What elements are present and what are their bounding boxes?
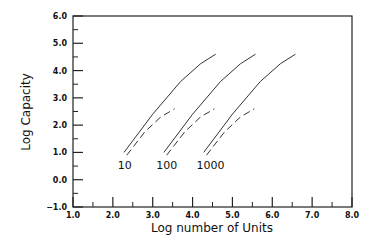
plot-border [73,16,352,207]
y-tick-label: 2.0 [53,121,68,130]
x-tick-label: 1.0 [66,211,81,220]
y-axis-title: Log Capacity [19,73,33,151]
x-axis-title: Log number of Units [151,221,273,235]
y-tick-label: 0.0 [53,176,68,185]
log-capacity-chart: −1.00.01.02.03.04.05.06.0 1.02.03.04.05.… [0,0,374,250]
y-tick-label: 4.0 [53,67,68,76]
curve-label: 10 [118,159,132,172]
x-tick-label: 3.0 [146,211,161,220]
y-tick-label: 3.0 [53,94,68,103]
dashed-curve [207,109,255,155]
series-lines [124,54,295,155]
x-tick-label: 5.0 [225,211,240,220]
x-tick-label: 7.0 [305,211,320,220]
curve-label: 1000 [197,159,225,172]
y-tick-label: 1.0 [53,148,68,157]
y-tick-label: −1.0 [46,203,67,212]
y-tick-label: 6.0 [53,12,68,21]
plot-frame [73,16,352,207]
x-tick-label: 4.0 [185,211,200,220]
solid-curve [204,54,296,152]
y-axis: −1.00.01.02.03.04.05.06.0 [46,12,83,212]
y-tick-label: 5.0 [53,39,68,48]
x-tick-label: 2.0 [106,211,121,220]
curve-labels: 101001000 [118,159,225,172]
curve-label: 100 [156,159,177,172]
x-tick-label: 6.0 [265,211,280,220]
x-tick-label: 8.0 [345,211,360,220]
x-axis: 1.02.03.04.05.06.07.08.0 [66,197,360,220]
